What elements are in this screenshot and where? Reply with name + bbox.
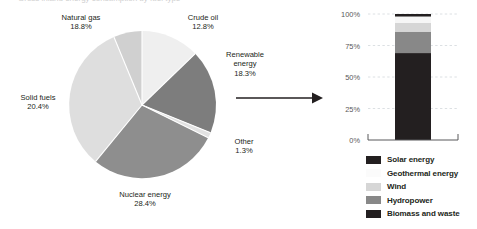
legend-item-wind[interactable]: Wind	[366, 180, 477, 194]
pie-label-solid-fuels-name: Solid fuels	[5, 93, 71, 102]
legend-label-solar-energy: Solar energy	[387, 155, 434, 164]
y-axis-tick-100: 100%	[334, 10, 360, 19]
pie-chart-panel: Natural gas 18.8% Crude oil 12.8% Renewa…	[0, 0, 320, 229]
y-axis-tick-50: 50%	[334, 73, 360, 82]
legend-label-wind: Wind	[387, 182, 406, 191]
bar-segment-biomass-and-waste[interactable]	[395, 53, 431, 140]
pie-label-nuclear-energy-name: Nuclear energy	[97, 190, 193, 199]
pie-label-natural-gas: Natural gas 18.8%	[38, 13, 124, 32]
y-axis-tick-0: 0%	[334, 136, 360, 145]
pie-label-crude-oil-name: Crude oil	[168, 13, 238, 22]
pie-label-crude-oil: Crude oil 12.8%	[168, 13, 238, 32]
pie-label-renewable-energy-value: 18.3%	[208, 69, 282, 78]
legend-swatch-hydropower-icon	[366, 196, 381, 204]
bar-segment-wind[interactable]	[395, 23, 431, 32]
pie-label-nuclear-energy-value: 28.4%	[97, 199, 193, 208]
pie-label-nuclear-energy: Nuclear energy 28.4%	[97, 190, 193, 209]
pie-label-solid-fuels: Solid fuels 20.4%	[5, 93, 71, 112]
bar-segment-hydropower[interactable]	[395, 32, 431, 53]
pie-label-solid-fuels-value: 20.4%	[5, 102, 71, 111]
pie-label-other-name: Other	[216, 137, 272, 146]
legend-item-solar-energy[interactable]: Solar energy	[366, 153, 477, 167]
y-axis-tick-25: 25%	[334, 105, 360, 114]
legend-swatch-wind-icon	[366, 183, 381, 191]
pie-label-other: Other 1.3%	[216, 137, 272, 156]
legend-label-hydropower: Hydropower	[387, 196, 433, 205]
legend-swatch-geothermal-energy-icon	[366, 169, 381, 177]
y-axis-tick-75: 75%	[334, 42, 360, 51]
pie-label-crude-oil-value: 12.8%	[168, 22, 238, 31]
legend-item-geothermal-energy[interactable]: Geothermal energy	[366, 167, 477, 181]
pie-label-renewable-energy-name2: energy	[208, 59, 282, 68]
legend-item-biomass-and-waste[interactable]: Biomass and waste	[366, 207, 477, 221]
legend-item-hydropower[interactable]: Hydropower	[366, 194, 477, 208]
bar-chart-legend: Solar energy Geothermal energy Wind Hydr…	[366, 153, 477, 221]
arrow-right-icon	[236, 88, 324, 108]
pie-label-renewable-energy-name1: Renewable	[208, 50, 282, 59]
pie-label-renewable-energy: Renewable energy 18.3%	[208, 50, 282, 78]
pie-label-natural-gas-name: Natural gas	[38, 13, 124, 22]
bar-segment-solar-energy[interactable]	[395, 14, 431, 17]
legend-label-biomass-and-waste: Biomass and waste	[387, 209, 460, 218]
pie-label-other-value: 1.3%	[216, 146, 272, 155]
figure-root: Gross inland energy consumption by fuel …	[0, 0, 477, 229]
bar-segment-geothermal-energy[interactable]	[395, 17, 431, 23]
legend-label-geothermal-energy: Geothermal energy	[387, 169, 458, 178]
pie-label-natural-gas-value: 18.8%	[38, 22, 124, 31]
legend-swatch-solar-energy-icon	[366, 156, 381, 164]
legend-swatch-biomass-and-waste-icon	[366, 210, 381, 218]
